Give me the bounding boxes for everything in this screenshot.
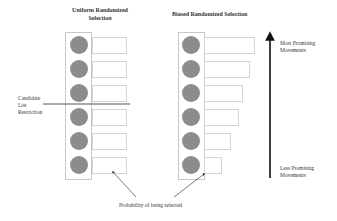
probability-pointer-left [113,172,136,197]
probability-pointer-right [174,174,204,197]
connector-overlay [0,0,337,221]
